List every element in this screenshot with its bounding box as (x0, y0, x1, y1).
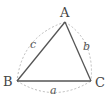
side-label-a: a (50, 84, 57, 97)
side-label-b: b (83, 40, 90, 53)
triangle-diagram: A B C a b c (0, 0, 112, 109)
vertex-label-a: A (59, 5, 70, 20)
side-label-c: c (30, 38, 36, 51)
vertex-label-b: B (3, 74, 13, 89)
triangle-svg: A B C a b c (0, 0, 112, 109)
edge-c (17, 22, 65, 81)
vertex-label-c: C (95, 75, 105, 90)
